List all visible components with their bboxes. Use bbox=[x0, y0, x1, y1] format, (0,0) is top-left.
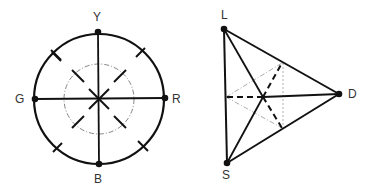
line-center-d bbox=[263, 94, 339, 97]
node-r bbox=[162, 95, 169, 102]
node-l bbox=[221, 26, 228, 33]
outer-tick-nw bbox=[52, 52, 61, 61]
lsd-triangle-diagram bbox=[221, 26, 343, 167]
line-s-center bbox=[227, 97, 263, 163]
inner-tick-ne bbox=[114, 70, 126, 82]
label-s: S bbox=[222, 169, 230, 181]
node-s bbox=[224, 160, 231, 167]
node-b bbox=[96, 161, 103, 168]
node-y bbox=[95, 29, 102, 36]
inner-tick-nw bbox=[72, 70, 84, 82]
label-l: L bbox=[221, 9, 228, 21]
node-d bbox=[336, 91, 343, 98]
label-d: D bbox=[348, 88, 357, 100]
opponent-circle-diagram bbox=[32, 29, 169, 168]
edge-ld bbox=[224, 29, 339, 94]
diagram-canvas bbox=[0, 0, 369, 190]
dashed-center-to-sd bbox=[263, 97, 282, 128]
node-g bbox=[32, 96, 39, 103]
edge-ls bbox=[224, 29, 227, 163]
label-r: R bbox=[172, 93, 181, 105]
label-b: B bbox=[94, 173, 102, 185]
label-g: G bbox=[15, 93, 24, 105]
inner-tick-sw bbox=[72, 116, 84, 128]
label-y: Y bbox=[93, 11, 101, 23]
dashed-center-to-ld bbox=[263, 63, 282, 97]
inner-tick-se bbox=[114, 116, 126, 128]
